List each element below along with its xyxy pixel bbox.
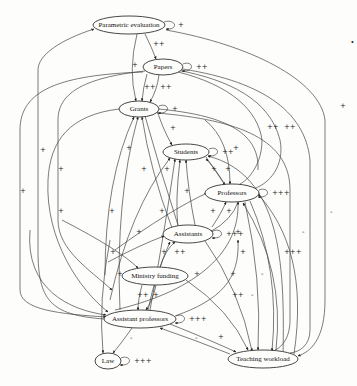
causal-loop-diagram: ++++++++++++++++++++++++++++++++++++++++… — [0, 0, 357, 386]
self-loop-label: + — [178, 21, 184, 29]
self-loop-label: +++ — [272, 189, 290, 197]
standalone-mark: • — [351, 38, 354, 47]
self-loop-label: ++ — [196, 63, 208, 71]
node-label: Grants — [130, 105, 149, 113]
edge-polarity-label: ++ — [284, 123, 296, 131]
edge-polarity-label: + — [194, 270, 200, 278]
edge-polarity-label: + — [159, 207, 165, 215]
node-label: Ministry funding — [131, 272, 179, 280]
node-papers: Papers — [143, 59, 183, 75]
self-loop-label: +++ — [134, 357, 152, 365]
edge-polarity-label: + — [210, 207, 216, 215]
edge-polarity-label: - — [130, 334, 133, 342]
edge-polarity-label: + — [233, 144, 239, 152]
self-loop-label: +++ — [226, 230, 244, 238]
edge-polarity-label: + — [58, 207, 64, 215]
edge-polarity-label: + — [226, 207, 232, 215]
edge-polarity-label: + — [20, 187, 26, 195]
edge-polarity-label: + — [340, 102, 346, 110]
edge-polarity-label: ++ — [153, 40, 165, 48]
edge-polarity-label: ++ — [137, 291, 149, 299]
edge-polarity-label: + — [109, 207, 115, 215]
edge-polarity-label: + — [211, 165, 217, 173]
edge-polarity-label: + — [58, 165, 64, 173]
node-assistants: Assistants — [163, 225, 213, 243]
edge-polarity-label: - — [261, 270, 264, 278]
edge-polarity-label: + — [136, 228, 142, 236]
edge-polarity-label: - — [251, 291, 254, 299]
edge-polarity-label: + — [110, 248, 116, 256]
node-label: Assistant professors — [112, 315, 168, 323]
edge-polarity-label: + — [141, 165, 147, 173]
node-label: Parametric evaluation — [98, 21, 160, 29]
edge-polarity-label: - — [330, 208, 333, 216]
edge-polarity-label: + — [132, 61, 138, 69]
edge-polarity-label: ++ — [267, 123, 279, 131]
node-law: Law — [95, 353, 121, 369]
edge-polarity-label: + — [170, 124, 176, 132]
node-label: Professors — [217, 189, 246, 197]
edge-polarity-label: + — [164, 165, 170, 173]
node-students: Students — [163, 144, 209, 160]
node-teaching-workload: Teaching workload — [228, 350, 298, 368]
node-label: Teaching workload — [236, 355, 290, 363]
node-professors: Professors — [205, 184, 259, 202]
self-loop-label: ++ — [222, 148, 234, 156]
edge-polarity-label: + — [225, 165, 231, 173]
self-loop-label: +++ — [189, 315, 207, 323]
edge-polarity-label: + — [161, 248, 167, 256]
edge-polarity-label: + — [240, 248, 246, 256]
node-label: Assistants — [174, 230, 203, 238]
node-label: Papers — [154, 63, 173, 71]
edge-polarity-label: + — [40, 146, 46, 154]
self-loop-label: + — [172, 105, 178, 113]
edge-polarity-label: ++ — [144, 83, 156, 91]
edge-polarity-label: ++ — [174, 248, 186, 256]
node-assistant-professors: Assistant professors — [104, 310, 176, 328]
edge-polarity-label: +++ — [284, 248, 302, 256]
edge-polarity-label: ++ — [160, 83, 172, 91]
node-label: Law — [102, 357, 115, 365]
edge-polarity-label: + — [153, 291, 159, 299]
edge-polarity-label: + — [230, 270, 236, 278]
edge-polarity-label: ++ — [232, 291, 244, 299]
node-parametric-evaluation: Parametric evaluation — [93, 16, 165, 34]
edge-polarity-label: + — [184, 187, 190, 195]
edge-polarity-label: - — [302, 228, 305, 236]
node-label: Students — [174, 148, 198, 156]
node-grants: Grants — [119, 101, 159, 117]
edge-polarity-label: + — [126, 144, 132, 152]
node-ministry-funding: Ministry funding — [122, 267, 188, 285]
edge-polarity-label: + — [218, 333, 224, 341]
